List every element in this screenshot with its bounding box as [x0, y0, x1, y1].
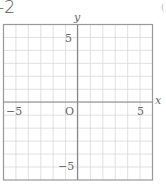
- x-axis-label: x: [155, 94, 162, 107]
- x-tick-neg5: −5: [6, 105, 22, 118]
- coordinate-grid: y x O −5 5 5 −5: [0, 0, 166, 185]
- origin-label: O: [65, 105, 74, 118]
- x-tick-5: 5: [137, 105, 144, 118]
- y-tick-neg5: −5: [58, 160, 74, 173]
- y-tick-5: 5: [65, 32, 72, 45]
- y-axis-label: y: [73, 11, 81, 24]
